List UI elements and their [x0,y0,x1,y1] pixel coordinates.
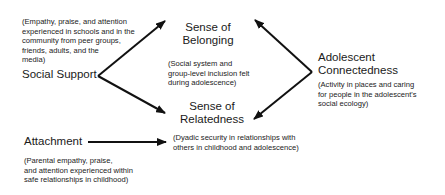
desc-line: media) [22,55,152,65]
desc-line: (Activity in places and caring [318,80,443,90]
label-line: Adolescent [318,51,398,64]
desc-line: (Social system and [168,59,268,69]
arrow-support-to-relatedness [98,76,165,113]
relatedness-description: (Dyadic security in relationships with o… [173,133,348,152]
label-line: Sense of [168,21,248,34]
attachment-description: (Parental empathy, praise, and attention… [24,156,154,185]
desc-line: and attention experienced within [24,166,154,176]
desc-line: group-level inclusion felt [168,69,268,79]
label-line: Connectedness [318,64,398,77]
desc-line: for people in the adolescent's [318,90,443,100]
belonging-description: (Social system and group-level inclusion… [168,59,268,88]
desc-line: during adolescence) [168,78,268,88]
belonging-label: Sense of Belonging [168,21,248,47]
connectedness-label: Adolescent Connectedness [318,51,398,77]
desc-line: friends, adults, and the [22,46,152,56]
desc-line: community from peer groups, [22,36,152,46]
desc-line: social ecology) [318,99,443,109]
social-support-description: (Empathy, praise, and attention experien… [22,17,152,65]
label-line: Sense of [172,100,252,113]
label-line: Belonging [168,34,248,47]
relatedness-label: Sense of Relatedness [172,100,252,126]
connectedness-description: (Activity in places and caring for peopl… [318,80,443,109]
label-line: Relatedness [172,113,252,126]
desc-line: (Dyadic security in relationships with [173,133,348,143]
desc-line: (Parental empathy, praise, [24,156,154,166]
desc-line: (Empathy, praise, and attention [22,17,152,27]
social-support-label: Social Support [22,68,97,81]
desc-line: safe relationships in childhood) [24,175,154,185]
attachment-label: Attachment [24,135,82,148]
desc-line: experienced in schools and in the [22,27,152,37]
desc-line: others in childhood and adolescence) [173,143,348,153]
